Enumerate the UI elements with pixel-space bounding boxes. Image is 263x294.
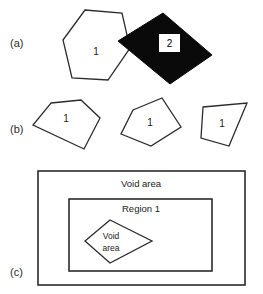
- hexagon-shape: [63, 10, 130, 80]
- void-diamond-label-line1: Void: [103, 231, 120, 241]
- void-diamond-label-line2: area: [102, 243, 119, 253]
- quadrilateral-right-label: 1: [219, 118, 225, 129]
- pentagon-left-shape: [33, 100, 100, 149]
- panel-c-label: (c): [10, 266, 23, 278]
- figure-diagram: (a) 1 2 (b) 1 1 1 (c) Void area Region 1: [0, 0, 263, 294]
- black-quadrilateral-label: 2: [167, 38, 173, 49]
- panel-b-label: (b): [10, 123, 23, 135]
- panel-c-shapes: Void area Region 1 Void area: [38, 171, 245, 285]
- pentagon-middle-label: 1: [147, 117, 153, 128]
- inner-region-rectangle-label: Region 1: [122, 203, 160, 214]
- pentagon-left-label: 1: [63, 113, 69, 124]
- void-diamond-shape: [85, 220, 152, 263]
- panel-a-label: (a): [10, 37, 23, 49]
- panel-a-shapes: 1 2: [63, 10, 212, 84]
- outer-void-rectangle-label: Void area: [121, 178, 162, 189]
- panel-b-shapes: 1 1 1: [33, 98, 247, 149]
- hexagon-label: 1: [93, 46, 99, 57]
